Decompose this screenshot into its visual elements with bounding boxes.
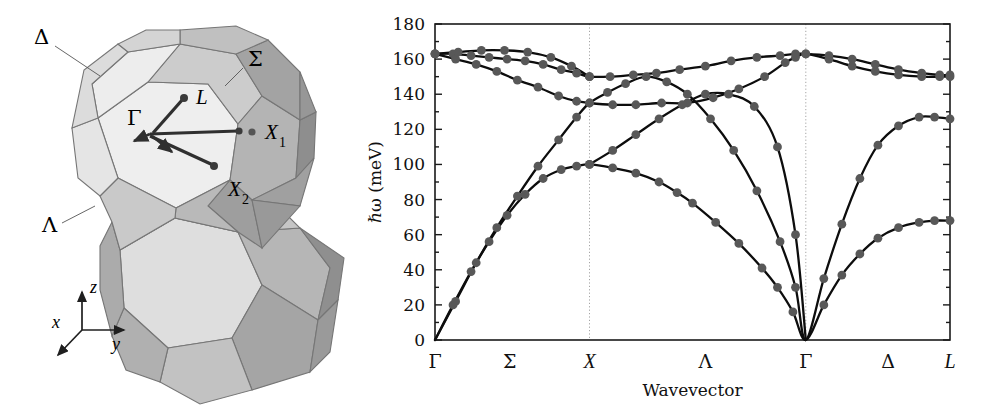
bz-label-X1-subscript: 1 (279, 135, 286, 150)
data-point (688, 199, 697, 208)
data-point (946, 216, 955, 225)
data-point (837, 220, 846, 229)
data-point (585, 160, 594, 169)
data-point (534, 162, 543, 171)
data-point (572, 113, 581, 122)
data-point (683, 90, 692, 99)
data-point (485, 237, 494, 246)
axis-label-y: y (110, 334, 120, 354)
data-point (662, 78, 671, 87)
data-point (935, 72, 944, 81)
data-point (546, 53, 555, 62)
data-point (554, 92, 563, 101)
data-point (750, 102, 759, 111)
band-lines (435, 50, 950, 340)
data-point (523, 48, 532, 57)
xtick-label-3: Λ (698, 350, 713, 372)
data-point (572, 69, 581, 78)
data-point (837, 271, 846, 280)
data-point (539, 174, 548, 183)
bz-label-X1: X (264, 120, 279, 144)
point-X2 (210, 162, 218, 170)
data-point (752, 53, 761, 62)
xtick-label-2: X (582, 350, 596, 372)
data-point (930, 216, 939, 225)
data-point (621, 79, 630, 88)
data-point (642, 72, 651, 81)
data-point (894, 223, 903, 232)
data-point (521, 56, 530, 65)
data-point (431, 49, 440, 58)
xtick-label-6: L (943, 350, 955, 372)
data-point (503, 55, 512, 64)
data-point (706, 114, 715, 123)
data-point (513, 192, 522, 201)
data-point (701, 62, 710, 71)
xtick-label-5: Δ (881, 350, 895, 372)
data-point (503, 211, 512, 220)
data-point (631, 130, 640, 139)
data-point (874, 234, 883, 243)
data-point (472, 258, 481, 267)
data-point (946, 72, 955, 81)
band-curve-0 (435, 164, 950, 340)
data-point (673, 188, 682, 197)
data-point (791, 283, 800, 292)
data-point (500, 46, 509, 55)
data-point (557, 65, 566, 74)
data-point (791, 53, 800, 62)
data-point (773, 283, 782, 292)
axis-label-x: x (51, 312, 60, 332)
data-point (760, 72, 769, 81)
data-point (539, 60, 548, 69)
data-point (758, 264, 767, 273)
data-point (534, 83, 543, 92)
data-point (675, 65, 684, 74)
ytick-label-8: 160 (393, 49, 425, 69)
data-point (801, 49, 810, 58)
data-point (629, 71, 638, 80)
data-point (727, 56, 736, 65)
xtick-label-0: Γ (428, 350, 441, 372)
xtick-label-1: Σ (503, 350, 516, 372)
data-point (513, 76, 522, 85)
data-point (855, 250, 864, 259)
data-point (734, 239, 743, 248)
data-point (608, 164, 617, 173)
ytick-label-6: 120 (393, 119, 425, 139)
data-point (701, 90, 710, 99)
data-point (557, 165, 566, 174)
data-point (492, 67, 501, 76)
data-point (606, 72, 615, 81)
phonon-dispersion-panel: 020406080100120140160180ΓΣXΛΓΔLWavevecto… (355, 0, 999, 409)
data-point (791, 230, 800, 239)
data-point (572, 97, 581, 106)
data-point (678, 100, 687, 109)
data-point (657, 99, 666, 108)
point-X1-outer (248, 128, 255, 135)
data-point (915, 218, 924, 227)
data-point (946, 114, 955, 123)
data-point (585, 99, 594, 108)
data-points (431, 46, 955, 316)
bz-label-gamma: Γ (127, 106, 142, 130)
bz-label-X2-subscript: 2 (242, 192, 249, 207)
leader-delta (55, 46, 100, 76)
brillouin-zone-panel: Δ Σ Λ Γ L X 1 X 2 z y x (0, 0, 360, 409)
data-point (894, 71, 903, 80)
bz-face (300, 72, 316, 120)
ytick-label-9: 180 (393, 14, 425, 34)
data-point (819, 274, 828, 283)
leader-lambda (62, 206, 95, 223)
data-point (454, 48, 463, 57)
data-point (789, 308, 798, 317)
ytick-label-7: 140 (393, 84, 425, 104)
brillouin-zone-figure: Δ Σ Λ Γ L X 1 X 2 z y x (0, 0, 360, 409)
data-point (894, 121, 903, 130)
bz-label-L: L (195, 85, 208, 109)
data-point (825, 55, 834, 64)
data-point (773, 142, 782, 151)
bz-label-delta: Δ (34, 25, 49, 49)
point-X1 (235, 127, 242, 134)
data-point (776, 51, 785, 60)
